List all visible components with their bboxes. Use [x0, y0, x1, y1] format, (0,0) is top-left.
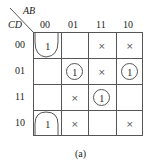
figure-caption: (a)	[75, 148, 86, 159]
wrap-group-loops	[0, 0, 159, 164]
